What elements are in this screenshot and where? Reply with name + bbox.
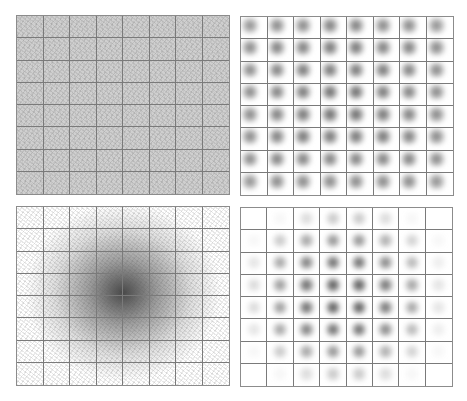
grid-cell [176,38,203,60]
grid-cell [427,17,454,39]
grid-cell [123,252,150,274]
grid-cell [427,62,454,84]
grid-cell [321,106,348,128]
density-blob [427,39,446,56]
density-blob [427,17,446,34]
grid-cell [123,229,150,251]
density-blob [347,39,365,56]
density-blob [241,128,259,145]
grid-cell [294,173,321,195]
density-blob [321,84,339,101]
grid-cell [97,318,124,340]
grid-cell [267,342,293,364]
grid-cell [17,127,44,149]
grid-cell [294,253,320,275]
panel-top-left [16,15,230,195]
grid-cell [399,230,425,252]
grid-cell [399,319,425,341]
density-blob [351,233,367,248]
grid-cell [176,83,203,105]
grid-cell [123,274,150,296]
grid-cell [399,297,425,319]
grid-cell [294,128,321,150]
grid-cell [347,275,373,297]
grid-cell [123,150,150,172]
density-blob [427,173,446,190]
density-blob [272,277,288,292]
grid-cell [70,61,97,83]
grid-cell [320,319,346,341]
grid-cell [150,83,177,105]
density-blob [268,62,286,79]
grid-cell [44,172,71,194]
grid-cell [374,151,401,173]
density-blob [246,277,262,292]
density-blob [325,277,341,292]
density-blob [268,39,286,56]
grid-cell [347,230,373,252]
density-blob [374,106,392,123]
density-blob [321,17,339,34]
density-blob [325,233,341,248]
density-blob [325,255,341,270]
density-blob [298,366,314,382]
grid-cell [123,318,150,340]
grid-cell [267,208,293,230]
grid-cell [150,296,177,318]
grid-cell [400,128,427,150]
grid-cell [176,61,203,83]
grid-cell [294,364,320,386]
grid-cell [44,341,71,363]
grid-cell [373,230,399,252]
density-blob [374,62,392,79]
grid-cell [203,274,230,296]
grid-cell [123,207,150,229]
density-blob [325,300,341,315]
density-blob [272,322,288,337]
grid-cell [267,364,293,386]
grid-cell [427,151,454,173]
density-blob [268,106,286,123]
grid-cell [17,341,44,363]
density-blob [404,344,420,359]
density-blob [294,39,312,56]
grid-cell [268,84,295,106]
density-blob [377,255,393,270]
grid-cell [97,252,124,274]
grid-cell [70,83,97,105]
density-blob [294,84,312,101]
grid-cell [176,150,203,172]
grid-cell [176,172,203,194]
grid-cell [150,318,177,340]
grid-cell [97,83,124,105]
density-blob [351,322,367,337]
density-blob [325,344,341,359]
grid-cell [150,229,177,251]
grid-cell [347,39,374,61]
grid-cell [321,151,348,173]
grid-cell [70,252,97,274]
density-blob [351,366,367,382]
grid-cell [426,208,452,230]
grid-cell [374,62,401,84]
density-blob [374,17,392,34]
grid-cell [347,173,374,195]
density-blob [351,211,367,226]
density-blob [374,39,392,56]
density-blob [272,300,288,315]
grid-cell [241,173,268,195]
grid-cell [44,363,71,385]
density-blob [298,233,314,248]
grid-cell [241,39,268,61]
grid-cell [203,318,230,340]
grid-cell [241,128,268,150]
grid-cell [268,151,295,173]
density-blob [400,106,418,123]
grid-cell [176,363,203,385]
density-blob [241,151,259,168]
density-blob [377,277,393,292]
grid-cell [203,296,230,318]
grid-cell [97,105,124,127]
grid-cell [150,150,177,172]
grid-cell [426,275,452,297]
